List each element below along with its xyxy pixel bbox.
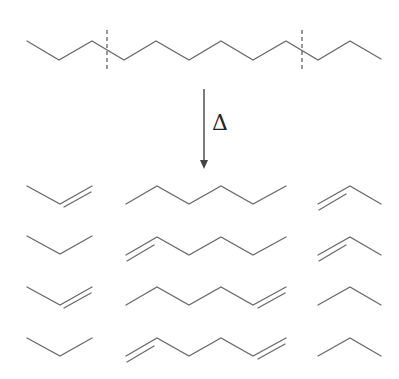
heat-label: Δ	[212, 112, 228, 134]
hexene-molecule	[126, 237, 286, 261]
propane-molecule	[27, 338, 92, 356]
product-row-3	[27, 287, 381, 308]
arrow-down-icon	[200, 160, 208, 169]
propane-molecule	[318, 338, 381, 356]
hexene-molecule	[126, 287, 286, 308]
product-row-4	[27, 338, 381, 362]
propene-molecule	[27, 287, 92, 308]
propane-molecule	[27, 236, 92, 254]
hexadiene-molecule	[126, 338, 286, 362]
propene-molecule	[318, 186, 381, 210]
propene-molecule	[318, 237, 381, 261]
product-row-2	[27, 236, 381, 261]
hexane-molecule	[126, 186, 286, 204]
reaction-arrow	[200, 89, 208, 169]
cracking-diagram	[0, 0, 399, 379]
propane-molecule	[318, 287, 381, 305]
product-row-1	[27, 186, 381, 210]
propene-molecule	[27, 186, 92, 207]
reactant-chain	[27, 30, 381, 72]
